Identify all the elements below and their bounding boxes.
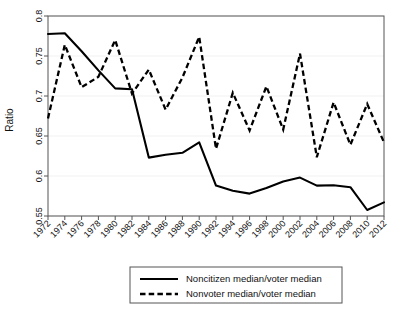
y-tick-label: 0.8	[34, 10, 44, 23]
y-tick-label: 0.65	[34, 127, 44, 145]
x-tick-label: 1984	[132, 218, 153, 239]
series-noncitizen	[48, 33, 384, 210]
x-tick-label: 2004	[300, 218, 321, 239]
y-tick-label: 0.7	[34, 90, 44, 103]
x-tick-label: 1978	[82, 218, 103, 239]
x-tick-label: 1992	[199, 218, 220, 239]
legend-label: Nonvoter median/voter median	[186, 288, 316, 299]
x-tick-label: 1996	[233, 218, 254, 239]
x-tick-label: 2000	[266, 218, 287, 239]
series-nonvoter	[48, 37, 384, 157]
y-tick-label: 0.6	[34, 170, 44, 183]
x-tick-label: 2008	[334, 218, 355, 239]
ratio-line-chart: 0.550.60.650.70.750.8 197219741976197819…	[0, 0, 420, 313]
x-tick-label: 1990	[182, 218, 203, 239]
x-tick-label: 2010	[350, 218, 371, 239]
x-tick-label: 1980	[98, 218, 119, 239]
y-axis-label: Ratio	[4, 108, 15, 132]
x-tick-label: 1986	[149, 218, 170, 239]
legend-label: Noncitizen median/voter median	[186, 273, 322, 284]
y-tick-label: 0.75	[34, 47, 44, 65]
x-tick-label: 2012	[367, 218, 388, 239]
x-tick-label: 1994	[216, 218, 237, 239]
x-axis-ticks: 1972197419761978198019821984198619881990…	[31, 216, 388, 240]
x-tick-label: 1982	[115, 218, 136, 239]
x-tick-label: 1976	[65, 218, 86, 239]
x-tick-label: 1998	[250, 218, 271, 239]
x-tick-label: 2006	[317, 218, 338, 239]
x-tick-label: 1974	[48, 218, 69, 239]
x-tick-label: 2002	[283, 218, 304, 239]
chart-legend: Noncitizen median/voter medianNonvoter m…	[130, 267, 342, 303]
y-axis-ticks: 0.550.60.650.70.750.8	[34, 10, 48, 225]
chart-figure: 0.550.60.650.70.750.8 197219741976197819…	[0, 0, 420, 313]
x-tick-label: 1988	[166, 218, 187, 239]
